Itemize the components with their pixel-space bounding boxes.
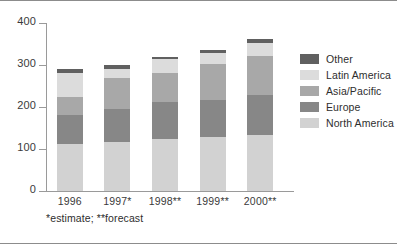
- bar-segment[interactable]: [152, 139, 178, 191]
- bar-segment[interactable]: [57, 144, 83, 191]
- y-axis-tick: 100: [0, 149, 46, 150]
- bar-segment[interactable]: [104, 69, 130, 77]
- bar-segment[interactable]: [247, 95, 273, 134]
- chart-footnote: *estimate; **forecast: [46, 212, 143, 224]
- y-axis-tick: 0: [0, 191, 46, 192]
- legend-color-swatch: [300, 70, 319, 80]
- legend-item-label: Europe: [326, 101, 360, 113]
- bar-segment[interactable]: [200, 137, 226, 191]
- bar-segment[interactable]: [152, 102, 178, 139]
- y-axis-tick: 400: [0, 23, 46, 24]
- bar-segment[interactable]: [57, 115, 83, 144]
- y-axis-tick: 200: [0, 107, 46, 108]
- bar-segment[interactable]: [57, 73, 83, 97]
- bar-segment[interactable]: [104, 142, 130, 191]
- legend-item[interactable]: North America: [300, 115, 394, 130]
- legend-item-label: Asia/Pacific: [326, 85, 381, 97]
- bar-stack[interactable]: [152, 57, 178, 191]
- y-axis-tick-mark: [39, 149, 46, 150]
- legend-item-label: North America: [326, 117, 394, 129]
- bar-segment[interactable]: [200, 100, 226, 137]
- y-axis-tick-label: 400: [17, 15, 36, 27]
- y-axis-tick-label: 200: [17, 99, 36, 111]
- bar-segment[interactable]: [104, 78, 130, 110]
- chart-figure: 0100200300400 19961997*1998**1999**2000*…: [0, 0, 397, 244]
- y-axis-tick-label: 100: [17, 141, 36, 153]
- bar-segment[interactable]: [200, 64, 226, 100]
- y-axis-tick-label: 300: [17, 57, 36, 69]
- plot-area: [46, 23, 284, 191]
- bar-segment[interactable]: [152, 59, 178, 73]
- y-axis-tick-mark: [39, 23, 46, 24]
- legend-item-label: Latin America: [326, 69, 391, 81]
- bar-segment[interactable]: [57, 97, 83, 115]
- y-axis-tick-mark: [39, 107, 46, 108]
- bar-segment[interactable]: [247, 135, 273, 191]
- bar-stack[interactable]: [57, 69, 83, 191]
- chart-legend: OtherLatin AmericaAsia/PacificEuropeNort…: [300, 51, 394, 131]
- legend-item[interactable]: Asia/Pacific: [300, 83, 394, 98]
- legend-color-swatch: [300, 54, 319, 64]
- x-axis-tick-label: 2000**: [230, 195, 290, 207]
- bar-segment[interactable]: [200, 53, 226, 64]
- y-axis-tick-label: 0: [30, 183, 36, 195]
- legend-item[interactable]: Europe: [300, 99, 394, 114]
- x-axis-line: [46, 191, 294, 192]
- legend-item[interactable]: Other: [300, 51, 394, 66]
- bar-stack[interactable]: [247, 39, 273, 191]
- bar-stack[interactable]: [200, 50, 226, 191]
- legend-color-swatch: [300, 102, 319, 112]
- bar-segment[interactable]: [247, 56, 273, 95]
- legend-color-swatch: [300, 118, 319, 128]
- y-axis-tick: 300: [0, 65, 46, 66]
- bar-segment[interactable]: [104, 109, 130, 142]
- bar-segment[interactable]: [247, 43, 273, 56]
- legend-item-label: Other: [326, 53, 353, 65]
- y-axis-tick-mark: [39, 191, 46, 192]
- bar-stack[interactable]: [104, 65, 130, 191]
- y-axis-tick-mark: [39, 65, 46, 66]
- legend-item[interactable]: Latin America: [300, 67, 394, 82]
- legend-color-swatch: [300, 86, 319, 96]
- bar-segment[interactable]: [152, 73, 178, 102]
